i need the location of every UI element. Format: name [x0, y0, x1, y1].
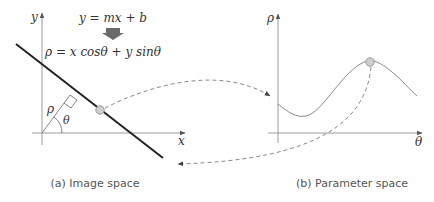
- image-space-panel: y x ρ θ y = mx + b ρ = x cosθ + y sinθ (…: [16, 10, 185, 190]
- parameter-space-caption: (b) Parameter space: [296, 177, 408, 190]
- hough-transform-diagram: y x ρ θ y = mx + b ρ = x cosθ + y sinθ (…: [0, 0, 434, 202]
- theta-label: θ: [63, 114, 70, 127]
- parameter-space-panel: ρ θ (b) Parameter space: [266, 11, 423, 190]
- mapping-arrow-to-parameter: [105, 80, 270, 108]
- image-y-axis-label: y: [30, 10, 38, 24]
- polar-equation: ρ = x cosθ + y sinθ: [44, 45, 162, 59]
- mapping-arrow-to-image: [178, 67, 371, 164]
- point-on-line: [96, 106, 104, 114]
- theta-arc: [54, 117, 62, 133]
- transform-arrow-icon: [102, 28, 124, 40]
- param-theta-axis-label: θ: [415, 135, 423, 149]
- rho-label: ρ: [46, 102, 54, 116]
- detected-line: [16, 44, 163, 158]
- sinusoid-curve: [278, 61, 417, 117]
- param-rho-axis-label: ρ: [266, 11, 274, 25]
- line-equation: y = mx + b: [78, 11, 147, 25]
- image-space-caption: (a) Image space: [50, 177, 139, 190]
- image-x-axis-label: x: [178, 134, 185, 148]
- peak-point: [366, 58, 374, 66]
- right-angle-marker: [64, 95, 77, 108]
